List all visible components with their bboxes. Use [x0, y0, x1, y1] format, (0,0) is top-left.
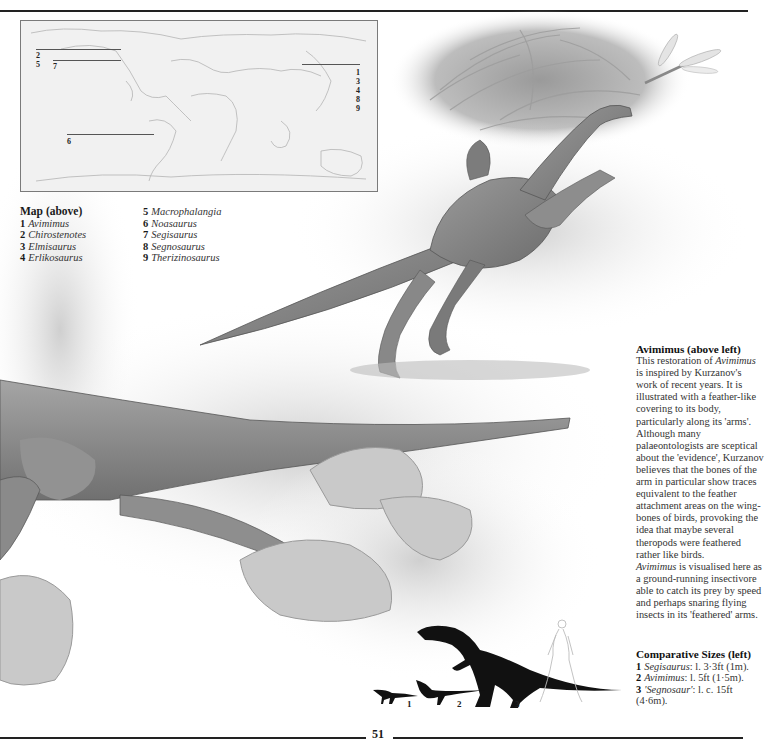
map-label-9: 9 [356, 104, 360, 113]
map-legend-item: 9Therizinosaurus [143, 252, 263, 264]
map-legend-item: 7Segisaurus [143, 229, 263, 241]
map-legend-item: 4Erlikosaurus [20, 252, 140, 264]
map-label-7: 7 [53, 62, 57, 71]
map-legend-item: 1Avimimus [20, 218, 140, 230]
silhouette-avimimus [416, 680, 485, 705]
map-legend-item: 3Elmisaurus [20, 241, 140, 253]
map-label-5: 5 [36, 60, 40, 69]
silhouette-label-1: 1 [407, 699, 412, 709]
map-label-3: 3 [356, 77, 360, 86]
map-legend-col2: 5Macrophalangia 6Noasaurus 7Segisaurus 8… [143, 206, 263, 264]
world-map: 2 5 7 6 1 3 4 8 9 [20, 20, 378, 192]
size-item: 1Segisaurus: l. 3·3ft (1m). [636, 661, 766, 673]
size-item: 3'Segnosaur': l. c. 15ft (4·6m). [636, 684, 766, 707]
map-legend-item: 6Noasaurus [143, 218, 263, 230]
caption-paragraph-2: Avimimus is visualised here as a ground-… [636, 561, 764, 621]
map-label-4: 4 [356, 86, 360, 95]
map-pointer-asia [302, 64, 360, 65]
caption-paragraph: This restoration of Avimimus is inspired… [636, 355, 764, 561]
map-legend-item: 8Segnosaurus [143, 241, 263, 253]
map-legend-item: 2Chirostenotes [20, 229, 140, 241]
map-pointer-6 [67, 134, 154, 135]
map-legend-col1: Map (above) 1Avimimus 2Chirostenotes 3El… [20, 206, 140, 264]
caption-heading: Avimimus (above left) [636, 343, 764, 355]
comparative-sizes: Comparative Sizes (left) 1Segisaurus: l.… [636, 649, 766, 707]
page-number: 51 [370, 727, 386, 742]
avimimus-caption: Avimimus (above left) This restoration o… [636, 343, 764, 621]
map-label-2: 2 [36, 51, 40, 60]
size-item: 2Avimimus: l. 5ft (1·5m). [636, 672, 766, 684]
sizes-heading: Comparative Sizes (left) [636, 649, 766, 661]
map-legend-title: Map (above) [20, 206, 140, 218]
map-label-8: 8 [356, 95, 360, 104]
map-label-1: 1 [356, 68, 360, 77]
map-pointer-2 [36, 49, 121, 50]
silhouette-label-2: 2 [457, 699, 462, 709]
map-label-6: 6 [67, 137, 71, 146]
map-legend-item: 5Macrophalangia [143, 206, 263, 218]
world-map-outline [21, 21, 377, 191]
map-pointer-5-7 [53, 60, 121, 61]
silhouette-label-3: 3 [515, 699, 520, 709]
